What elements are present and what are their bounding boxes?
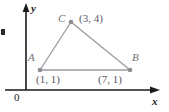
vertex-point-a: [38, 68, 43, 73]
vertex-point-b: [128, 68, 133, 73]
origin-label: 0: [14, 92, 20, 103]
triangle-edge-cb: [71, 22, 130, 70]
vertex-label-c: C: [58, 13, 65, 24]
vertex-point-c: [69, 20, 74, 25]
triangle-edge-ac: [40, 22, 71, 70]
y-axis-label: y: [31, 3, 36, 14]
vertex-coordinates-a: (1, 1): [36, 74, 60, 85]
x-axis-label: x: [152, 96, 158, 107]
vertex-label-a: A: [28, 52, 35, 63]
x-axis-arrowhead: [150, 86, 160, 93]
page-edge-artifact: [1, 29, 5, 35]
vertex-coordinates-b: (7, 1): [98, 74, 122, 85]
coordinate-plane-figure: y x 0 A B C (1, 1) (7, 1) (3, 4): [0, 0, 169, 112]
y-axis-arrowhead: [23, 3, 30, 12]
vertex-label-b: B: [132, 52, 139, 63]
vertex-coordinates-c: (3, 4): [79, 13, 103, 24]
